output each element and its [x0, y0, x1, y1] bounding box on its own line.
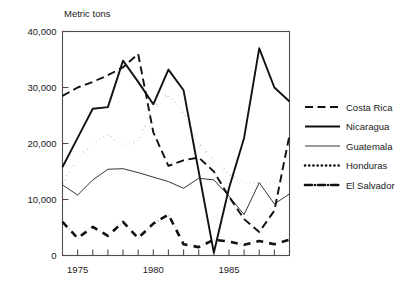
y-tick-label: 30,000 — [27, 82, 56, 93]
y-axis-title: Metric tons — [64, 8, 111, 19]
line-chart: Metric tons 010,00020,00030,00040,000 19… — [0, 0, 406, 291]
legend-label-guatemala: Guatemala — [346, 141, 393, 152]
legend-label-costa-rica: Costa Rica — [346, 102, 393, 113]
x-tick-label: 1985 — [218, 264, 239, 275]
legend-label-nicaragua: Nicaragua — [346, 121, 390, 132]
x-tick-label: 1975 — [67, 264, 88, 275]
legend-label-honduras: Honduras — [346, 160, 387, 171]
y-tick-label: 10,000 — [27, 194, 56, 205]
y-tick-label: 0 — [51, 250, 56, 261]
legend-label-el-salvador: El Salvador — [346, 180, 395, 191]
y-tick-label: 40,000 — [27, 26, 56, 37]
x-tick-label: 1980 — [143, 264, 164, 275]
y-tick-label: 20,000 — [27, 138, 56, 149]
